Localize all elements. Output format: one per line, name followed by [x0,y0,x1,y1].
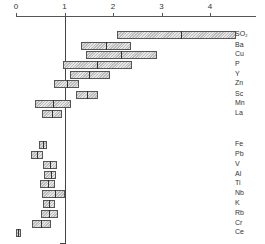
median-marker [87,91,88,99]
range-bar [86,51,157,59]
median-marker [181,31,182,39]
category-label: Ti [235,179,241,186]
x-tick [210,13,211,17]
range-bar [117,31,236,39]
range-bar [43,161,57,169]
median-marker [37,151,38,159]
category-label: Nb [235,189,244,196]
category-label: Fe [235,140,243,147]
range-bar [76,91,98,99]
median-marker [52,110,53,118]
range-bar [70,71,110,79]
category-label: Cr [235,219,242,226]
category-label: P [235,60,240,67]
median-marker [49,210,50,218]
category-label: Ba [235,41,244,48]
median-marker [97,61,98,69]
range-bar [41,210,58,218]
x-tick-label: 1 [62,2,66,11]
category-label: Cu [235,50,244,57]
median-marker [50,161,51,169]
x-tick [162,13,163,17]
category-label: Al [235,170,241,177]
range-bar [44,171,56,179]
range-bar [54,80,79,88]
x-tick-label: 4 [208,2,212,11]
range-bar [31,151,43,159]
median-marker [106,42,107,50]
category-label: La [235,109,243,116]
reference-line-at-1 [65,16,66,244]
category-label: Y [235,70,240,77]
range-bar [40,180,55,188]
x-tick-label: 2 [111,2,115,11]
range-bar [35,100,71,108]
range-bar [16,229,21,237]
median-marker [55,190,56,198]
median-marker [41,220,42,228]
range-bar [81,42,131,50]
category-label: Zn [235,79,243,86]
category-label: Rb [235,209,244,216]
median-marker [18,229,19,237]
median-marker [48,180,49,188]
x-tick-label: 3 [159,2,163,11]
range-bar [42,190,65,198]
median-marker [43,141,44,149]
range-bar [63,61,132,69]
median-marker [51,171,52,179]
median-marker [121,51,122,59]
x-tick [113,13,114,17]
category-label: Pb [235,150,244,157]
range-bar [42,110,62,118]
category-label: Mn [235,99,245,106]
category-label: Ce [235,228,244,235]
median-marker [67,80,68,88]
x-axis [16,16,256,17]
range-bar [32,220,51,228]
category-label: Sc [235,90,243,97]
category-label: V [235,160,240,167]
median-marker [89,71,90,79]
range-chart: 01234 SO₂BaCuPYZnScMnLaFePbVAlTiNbKRbCrC… [0,0,265,244]
x-tick [16,13,17,17]
x-tick-label: 0 [14,2,18,11]
category-label: SO₂ [235,30,248,37]
range-bar [39,141,47,149]
range-bar [43,200,55,208]
median-marker [49,200,50,208]
median-marker [53,100,54,108]
category-label: K [235,199,240,206]
